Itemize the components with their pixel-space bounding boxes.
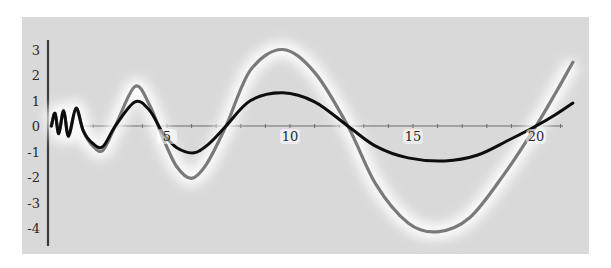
- x-tick-label: 20: [528, 129, 545, 144]
- gray-curve-glow: [51, 49, 573, 232]
- x-tick-label: 5: [163, 129, 171, 144]
- series-layer: [51, 49, 573, 232]
- y-tick-label: 0: [32, 119, 40, 134]
- y-tick-label: 3: [32, 43, 40, 58]
- x-tick-label: 10: [282, 129, 299, 144]
- x-axis: [48, 124, 563, 128]
- y-tick-label: -4: [27, 221, 40, 236]
- y-tick-label: 1: [32, 94, 40, 109]
- y-tick-label: 2: [32, 68, 40, 83]
- y-tick-label: -2: [27, 170, 40, 185]
- line-chart: 3210-1-2-3-45101520: [0, 0, 611, 268]
- x-tick-label: 15: [405, 129, 422, 144]
- y-tick-label: -3: [27, 196, 40, 211]
- y-tick-label: -1: [27, 145, 40, 160]
